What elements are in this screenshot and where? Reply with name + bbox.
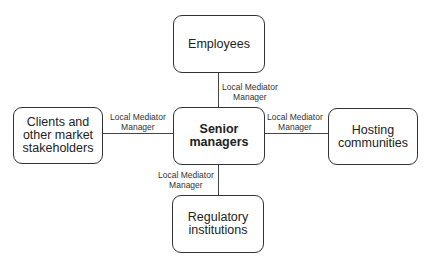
edge-label-right: Local Mediator Manager <box>267 112 323 132</box>
connector-bottom <box>218 165 219 195</box>
node-regulatory-institutions: Regulatory institutions <box>172 195 264 253</box>
node-clients: Clients and other market stakeholders <box>13 107 103 164</box>
edge-label-top: Local Mediator Manager <box>222 82 278 102</box>
node-regulatory-label: Regulatory institutions <box>188 211 248 237</box>
node-employees: Employees <box>173 15 265 73</box>
connector-left <box>103 133 173 134</box>
connector-top <box>218 73 219 107</box>
node-clients-label: Clients and other market stakeholders <box>23 116 94 155</box>
node-senior-managers-label: Senior managers <box>189 123 248 149</box>
edge-label-bottom: Local Mediator Manager <box>158 170 214 190</box>
edge-label-left: Local Mediator Manager <box>110 112 166 132</box>
node-senior-managers: Senior managers <box>173 107 265 165</box>
node-hosting-communities: Hosting communities <box>328 108 418 165</box>
node-hosting-label: Hosting communities <box>338 124 408 150</box>
node-employees-label: Employees <box>188 38 250 51</box>
connector-right <box>265 133 328 134</box>
